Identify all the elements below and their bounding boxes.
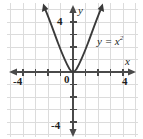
curve-equation-base: y = x: [97, 35, 120, 47]
x-axis-name-label: x: [125, 56, 130, 67]
y-axis-bottom-arrowhead: [69, 129, 76, 137]
curve-equation-exponent: 2: [120, 34, 124, 42]
origin-label: 0: [64, 74, 70, 85]
y-axis-tick-label-negative-four: -4: [51, 120, 60, 131]
curve-equation-label: y = x2: [97, 36, 123, 47]
x-axis-tick-label-negative-four: -4: [13, 76, 22, 87]
x-axis-right-arrowhead: [128, 68, 136, 75]
y-axis-name-label: y: [78, 5, 83, 16]
coordinate-plane-figure: -4 4 4 -4 0 x y y = x2: [0, 0, 143, 139]
x-axis-tick-label-positive-four: 4: [122, 76, 128, 87]
graph-canvas: [0, 0, 143, 139]
y-axis-tick-label-positive-four: 4: [57, 16, 63, 27]
